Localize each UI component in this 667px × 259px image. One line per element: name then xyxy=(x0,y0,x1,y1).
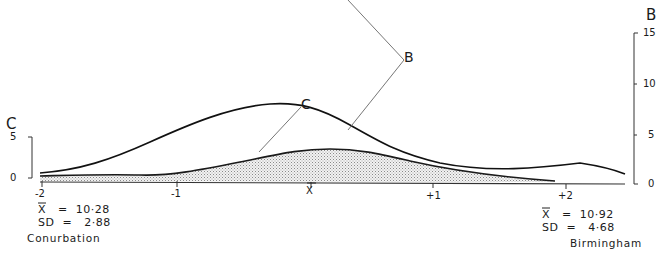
leader-line-b xyxy=(348,0,404,60)
birmingham-label: Birmingham xyxy=(570,238,642,249)
x-tick-minus1: -1 xyxy=(171,189,181,199)
right-tick-15: 15 xyxy=(643,28,656,38)
left-axis xyxy=(28,137,32,178)
x-tick-plus2: +2 xyxy=(558,191,573,201)
conurbation-sd: SD = 2·88 xyxy=(38,216,111,229)
left-tick-5: 5 xyxy=(10,132,16,142)
right-axis xyxy=(634,33,638,184)
right-tick-10: 10 xyxy=(643,79,656,89)
curve-c-label: C xyxy=(301,97,311,111)
x-tick-plus1: +1 xyxy=(426,191,441,201)
right-tick-0: 0 xyxy=(648,179,654,189)
leader-line-c xyxy=(259,107,301,152)
mean-overbars xyxy=(38,183,550,208)
x-tick-minus2: -2 xyxy=(35,189,45,199)
conurbation-label: Conurbation xyxy=(27,233,100,244)
right-axis-title: B xyxy=(646,8,656,23)
right-tick-5: 5 xyxy=(648,130,654,140)
birmingham-mean: X = 10·92 xyxy=(542,208,614,221)
birmingham-sd: SD = 4·68 xyxy=(542,221,615,234)
x-tick-mean: X xyxy=(306,186,313,196)
curve-c-area xyxy=(40,149,555,182)
leader-line-b2 xyxy=(348,60,404,130)
x-baseline xyxy=(40,182,625,184)
conurbation-mean: X = 10·28 xyxy=(38,203,110,216)
left-axis-title: C xyxy=(6,117,16,132)
curve-b-label: B xyxy=(404,50,414,64)
left-tick-0: 0 xyxy=(10,173,16,183)
